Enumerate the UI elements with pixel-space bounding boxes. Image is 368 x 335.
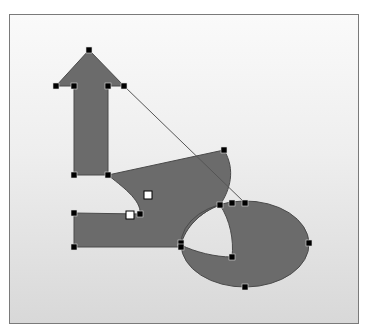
resize-handle[interactable] xyxy=(217,202,223,208)
resize-handle[interactable] xyxy=(86,47,92,53)
resize-handle[interactable] xyxy=(229,254,235,260)
resize-handle[interactable] xyxy=(71,244,77,250)
resize-handle[interactable] xyxy=(221,147,227,153)
resize-handle[interactable] xyxy=(71,83,77,89)
drawing-layer[interactable] xyxy=(0,0,368,335)
adjust-handle[interactable] xyxy=(144,191,152,199)
resize-handle[interactable] xyxy=(178,244,184,250)
resize-handle[interactable] xyxy=(242,200,248,206)
adjust-handle[interactable] xyxy=(126,211,134,219)
resize-handle[interactable] xyxy=(242,284,248,290)
resize-handle[interactable] xyxy=(105,172,111,178)
ellipse-shape[interactable] xyxy=(181,201,309,287)
resize-handle[interactable] xyxy=(53,83,59,89)
resize-handle[interactable] xyxy=(105,83,111,89)
resize-handle[interactable] xyxy=(137,211,143,217)
resize-handle[interactable] xyxy=(71,210,77,216)
resize-handle[interactable] xyxy=(306,240,312,246)
resize-handle[interactable] xyxy=(71,172,77,178)
arrow-shape[interactable] xyxy=(56,50,124,175)
resize-handle[interactable] xyxy=(121,83,127,89)
resize-handle[interactable] xyxy=(229,200,235,206)
